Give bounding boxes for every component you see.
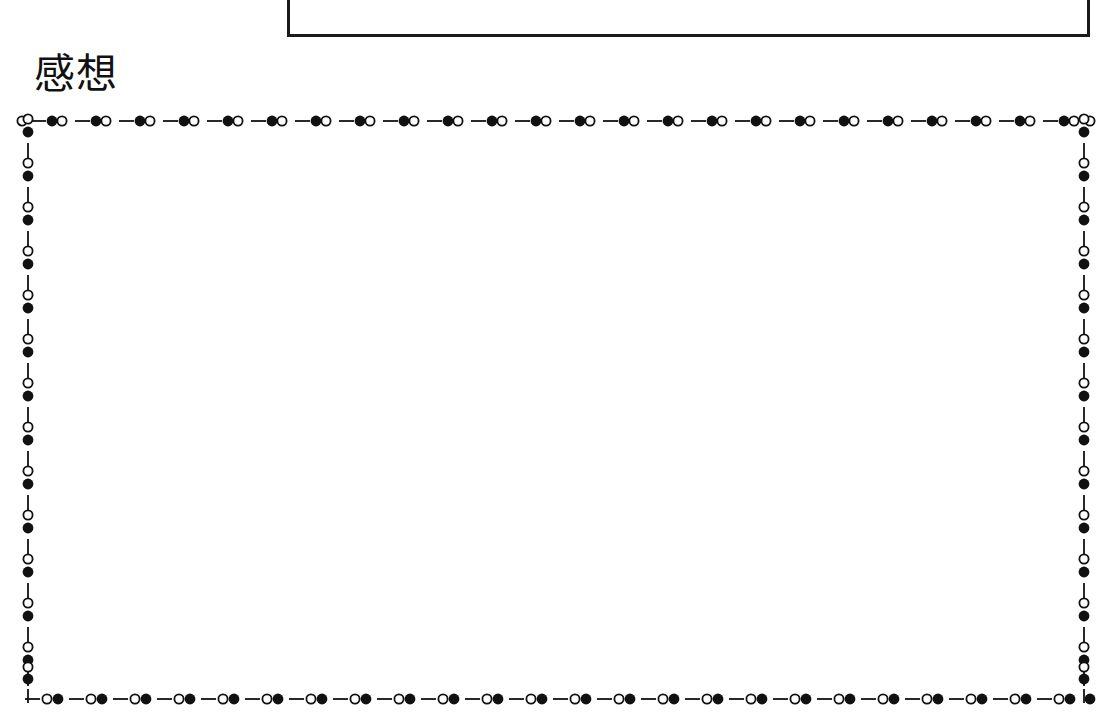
border-edge-left	[22, 115, 34, 705]
worksheet-page: 感想	[0, 0, 1103, 727]
free-response-writing-area[interactable]	[36, 130, 1076, 690]
page-title: 感想	[34, 54, 118, 95]
border-edge-top	[22, 115, 1090, 127]
previous-section-box	[287, 0, 1090, 37]
border-edge-bottom	[22, 693, 1090, 705]
border-edge-right	[1078, 115, 1090, 705]
